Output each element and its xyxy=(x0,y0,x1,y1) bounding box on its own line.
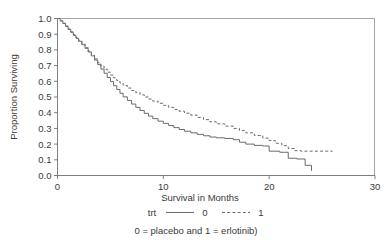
y-tick-label: 0.4 xyxy=(38,107,51,118)
x-tick-label: 0 xyxy=(55,181,60,192)
y-tick-label: 0.1 xyxy=(38,154,51,165)
y-tick-label: 0.5 xyxy=(38,91,51,102)
x-axis-title: Survival in Months xyxy=(161,192,239,203)
chart-canvas: 0.00.10.20.30.40.50.60.70.80.91.0 010203… xyxy=(0,0,390,246)
y-axis-title: Proportion Surviving xyxy=(8,54,19,140)
y-tick-label: 0.7 xyxy=(38,60,51,71)
x-tick-label: 10 xyxy=(158,181,169,192)
y-tick-label: 0.0 xyxy=(38,170,51,181)
y-tick-label: 0.9 xyxy=(38,29,51,40)
figure-background xyxy=(0,0,390,246)
y-tick-label: 0.8 xyxy=(38,44,51,55)
legend-label-1: 1 xyxy=(258,207,263,218)
x-tick-label: 20 xyxy=(264,181,275,192)
y-tick-label: 1.0 xyxy=(38,13,51,24)
x-tick-label: 30 xyxy=(370,181,381,192)
chart-caption: 0 = placebo and 1 = erlotinib) xyxy=(134,225,257,236)
y-tick-label: 0.2 xyxy=(38,139,51,150)
y-tick-label: 0.6 xyxy=(38,76,51,87)
y-axis-tick-labels: 0.00.10.20.30.40.50.60.70.80.91.0 xyxy=(38,13,51,181)
legend-label-0: 0 xyxy=(202,207,207,218)
y-tick-label: 0.3 xyxy=(38,123,51,134)
survival-plot-figure: 0.00.10.20.30.40.50.60.70.80.91.0 010203… xyxy=(0,0,390,246)
legend-title: trt xyxy=(148,207,157,218)
